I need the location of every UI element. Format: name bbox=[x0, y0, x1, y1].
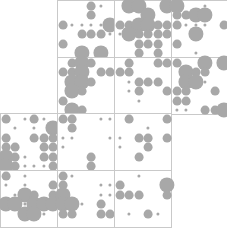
scatter-dot bbox=[1, 133, 10, 142]
scatter-dot bbox=[87, 58, 96, 67]
scatter-dot bbox=[144, 133, 153, 142]
scatter-dot bbox=[68, 114, 77, 123]
scatter-dot bbox=[147, 127, 150, 130]
panel-r3c0 bbox=[0, 170, 58, 228]
scatter-dot bbox=[204, 23, 207, 26]
scatter-dot bbox=[144, 209, 153, 218]
scatter-dot bbox=[185, 23, 188, 26]
scatter-dot bbox=[39, 133, 48, 142]
scatter-dot bbox=[77, 87, 86, 96]
scatter-dot bbox=[172, 20, 181, 29]
scatter-dot bbox=[30, 133, 39, 142]
scatter-dot bbox=[182, 87, 191, 96]
panel-r1c2 bbox=[114, 57, 172, 115]
scatter-dot bbox=[87, 77, 96, 86]
scatter-dot bbox=[99, 4, 102, 7]
scatter-dot bbox=[68, 209, 77, 218]
scatter-dot bbox=[172, 11, 181, 20]
scatter-dot bbox=[68, 124, 77, 133]
scatter-dot bbox=[144, 30, 153, 39]
scatter-dot bbox=[87, 152, 96, 161]
scatter-dot bbox=[128, 212, 131, 215]
scatter-dot bbox=[128, 90, 131, 93]
scatter-dot bbox=[4, 184, 7, 187]
panel-r0c2 bbox=[114, 0, 172, 58]
panel-r2c0 bbox=[0, 113, 58, 171]
scatter-dot bbox=[175, 109, 178, 112]
scatter-dot bbox=[61, 136, 64, 139]
scatter-dot bbox=[99, 184, 102, 187]
scatter-dot bbox=[71, 136, 74, 139]
scatter-dot bbox=[71, 174, 74, 177]
scatter-dot bbox=[99, 117, 102, 120]
scatter-dot bbox=[58, 114, 67, 123]
scatter-dot bbox=[188, 74, 203, 89]
scatter-dot bbox=[109, 136, 112, 139]
scatter-dot bbox=[90, 23, 93, 26]
scatter-dot bbox=[87, 11, 96, 20]
scatter-dot bbox=[77, 30, 86, 39]
scatter-dot bbox=[99, 193, 102, 196]
scatter-dot bbox=[134, 30, 143, 39]
scatter-dot bbox=[198, 8, 213, 23]
scatter-dot bbox=[96, 68, 105, 77]
scatter-dot bbox=[42, 117, 45, 120]
scatter-dot bbox=[96, 30, 105, 39]
scatter-dot bbox=[144, 77, 153, 86]
scatter-dot bbox=[115, 190, 124, 199]
scatter-dot bbox=[58, 68, 67, 77]
scatter-dot bbox=[11, 143, 20, 152]
scatter-matrix-figure bbox=[0, 0, 227, 231]
panel-r3c1 bbox=[57, 170, 115, 228]
panel-r0c1 bbox=[57, 0, 115, 58]
scatter-dot bbox=[172, 96, 181, 105]
scatter-dot bbox=[144, 143, 153, 152]
scatter-dot bbox=[144, 39, 153, 48]
scatter-dot bbox=[39, 143, 48, 152]
scatter-dot bbox=[115, 68, 124, 77]
scatter-dot bbox=[118, 146, 121, 149]
scatter-dot bbox=[115, 20, 124, 29]
scatter-dot bbox=[137, 174, 140, 177]
scatter-dot bbox=[23, 117, 26, 120]
panel-r0c3 bbox=[171, 0, 227, 58]
scatter-dot bbox=[58, 171, 67, 180]
scatter-dot bbox=[80, 203, 83, 206]
scatter-dot bbox=[134, 190, 143, 199]
scatter-dot bbox=[1, 114, 10, 123]
scatter-dot bbox=[185, 109, 188, 112]
scatter-dot bbox=[71, 23, 74, 26]
panel-r2c2 bbox=[114, 113, 172, 171]
panel-r1c3 bbox=[171, 57, 227, 115]
panel-r3c2 bbox=[114, 170, 172, 228]
scatter-dot bbox=[156, 212, 159, 215]
scatter-dot bbox=[153, 30, 162, 39]
scatter-dot bbox=[163, 114, 172, 123]
scatter-dot bbox=[87, 1, 96, 10]
scatter-dot bbox=[163, 133, 172, 142]
scatter-dot bbox=[153, 58, 162, 67]
scatter-dot bbox=[153, 39, 162, 48]
scatter-dot bbox=[58, 96, 67, 105]
scatter-dot bbox=[61, 146, 64, 149]
scatter-dot bbox=[80, 23, 83, 26]
scatter-dot bbox=[23, 165, 26, 168]
scatter-dot bbox=[201, 106, 210, 115]
scatter-dot bbox=[172, 58, 181, 67]
scatter-dot bbox=[134, 39, 143, 48]
scatter-dot bbox=[217, 103, 227, 118]
scatter-dot bbox=[172, 87, 181, 96]
scatter-dot bbox=[115, 181, 124, 190]
scatter-dot bbox=[1, 171, 10, 180]
scatter-dot bbox=[23, 174, 26, 177]
scatter-dot bbox=[204, 80, 207, 83]
scatter-dot bbox=[87, 30, 96, 39]
scatter-dot bbox=[58, 20, 67, 29]
scatter-dot bbox=[134, 133, 143, 142]
scatter-dot bbox=[182, 96, 191, 105]
scatter-dot bbox=[23, 155, 26, 158]
scatter-dot bbox=[125, 114, 134, 123]
scatter-dot bbox=[137, 99, 140, 102]
scatter-dot bbox=[109, 33, 112, 36]
scatter-dot bbox=[163, 190, 172, 199]
